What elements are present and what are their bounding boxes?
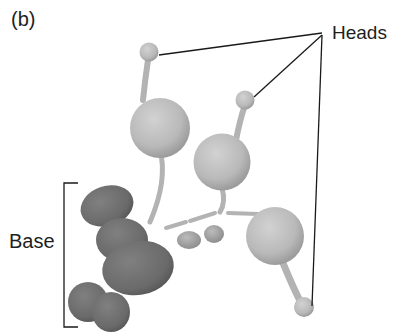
head-small-3 [294, 297, 314, 317]
base-lobes [68, 179, 178, 332]
head-small-top [140, 43, 159, 62]
linker-beads [177, 225, 224, 249]
head-large-1 [130, 98, 190, 158]
head-large-3 [246, 207, 304, 265]
head-large-2 [194, 134, 251, 191]
molecule-diagram [0, 0, 410, 333]
head-small-2 [236, 91, 255, 110]
